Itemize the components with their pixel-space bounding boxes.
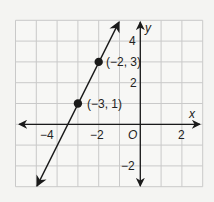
y-tick-neg2: −2: [121, 159, 135, 173]
graph-figure: (−2, 3) (−3, 1) x y −4 −2 O 2 4 2 −2: [0, 0, 214, 202]
point-label-a: (−2, 3): [106, 55, 141, 69]
y-tick-2: 2: [130, 76, 137, 90]
x-tick-neg2: −2: [90, 128, 104, 142]
origin-label: O: [128, 128, 137, 142]
y-axis-label: y: [144, 21, 152, 35]
y-tick-4: 4: [129, 34, 136, 48]
point-neg2-3: [95, 58, 103, 66]
x-tick-neg4: −4: [40, 128, 54, 142]
x-axis-label: x: [188, 107, 196, 121]
point-label-b: (−3, 1): [87, 97, 122, 111]
x-tick-2: 2: [178, 128, 185, 142]
coordinate-plane: (−2, 3) (−3, 1) x y −4 −2 O 2 4 2 −2: [0, 0, 214, 202]
point-neg3-1: [74, 99, 82, 107]
